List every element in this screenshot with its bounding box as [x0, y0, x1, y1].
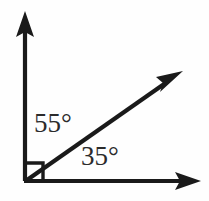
upper-angle-label: 55°	[34, 110, 72, 137]
lower-angle-label: 35°	[81, 143, 119, 170]
angle-diagram: 55° 35°	[0, 0, 209, 201]
